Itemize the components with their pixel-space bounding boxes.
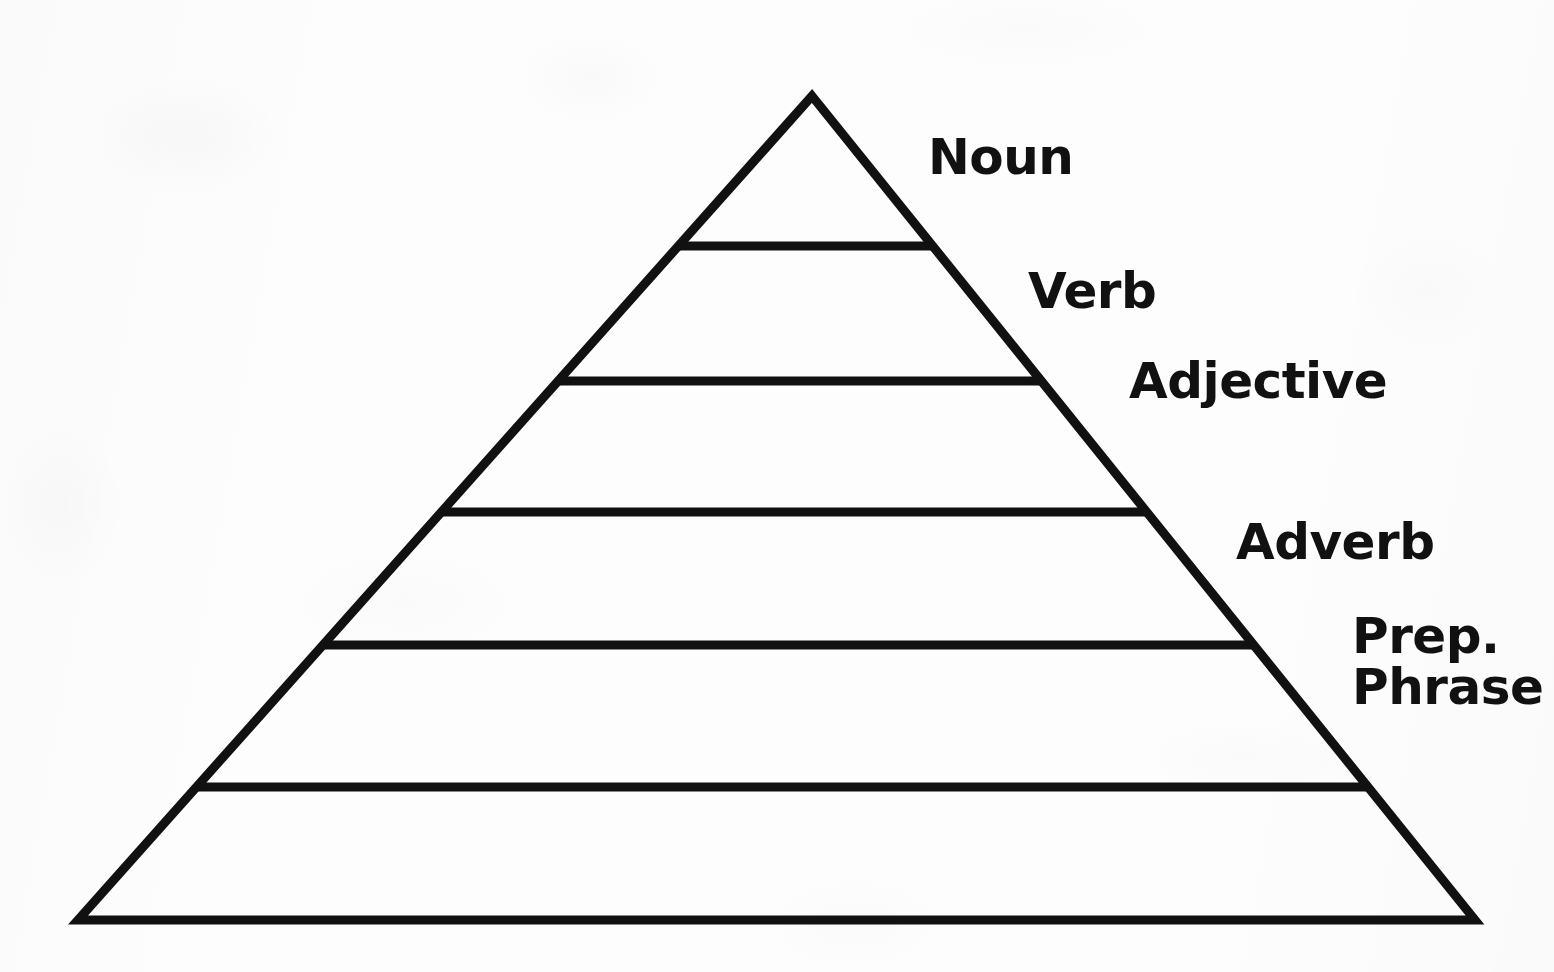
level-label-prep-phrase-line2: Phrase [1352, 662, 1543, 713]
pyramid-diagram [0, 0, 1554, 972]
level-label-prep-phrase: Prep. Phrase [1352, 611, 1543, 713]
level-label-prep-phrase-line1: Prep. [1352, 611, 1543, 662]
pyramid-divider-lines [196, 246, 1368, 787]
level-label-adjective: Adjective [1129, 356, 1387, 407]
level-label-noun: Noun [928, 132, 1073, 183]
level-label-adverb: Adverb [1236, 517, 1434, 568]
figure-canvas: Noun Verb Adjective Adverb Prep. Phrase [0, 0, 1554, 972]
level-label-verb: Verb [1028, 266, 1156, 317]
